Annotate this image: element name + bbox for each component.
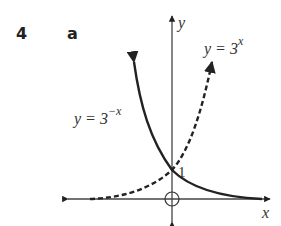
curve-three-power-negative-x — [134, 62, 262, 199]
x-axis-label: x — [261, 204, 269, 221]
y-intercept-label: 1 — [178, 164, 186, 180]
y-axis-label: y — [176, 14, 186, 32]
label-three-power-x: y = 3x — [202, 34, 244, 58]
label-three-power-negative-x: y = 3−x — [72, 104, 122, 128]
exponential-graph: y x 1 y = 3x y = 3−x — [0, 0, 281, 226]
